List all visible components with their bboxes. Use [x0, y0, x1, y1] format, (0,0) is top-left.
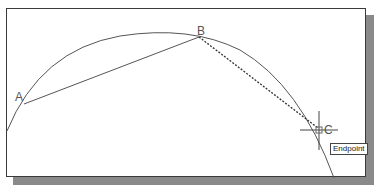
- point-label-b: B: [197, 24, 205, 38]
- drawing-canvas: A B C: [0, 0, 375, 187]
- segment-ab[interactable]: [24, 37, 199, 104]
- arc[interactable]: [7, 33, 334, 178]
- point-label-a: A: [15, 90, 23, 104]
- osnap-tooltip: Endpoint: [330, 143, 368, 155]
- segment-bc-rubberband: [199, 37, 318, 128]
